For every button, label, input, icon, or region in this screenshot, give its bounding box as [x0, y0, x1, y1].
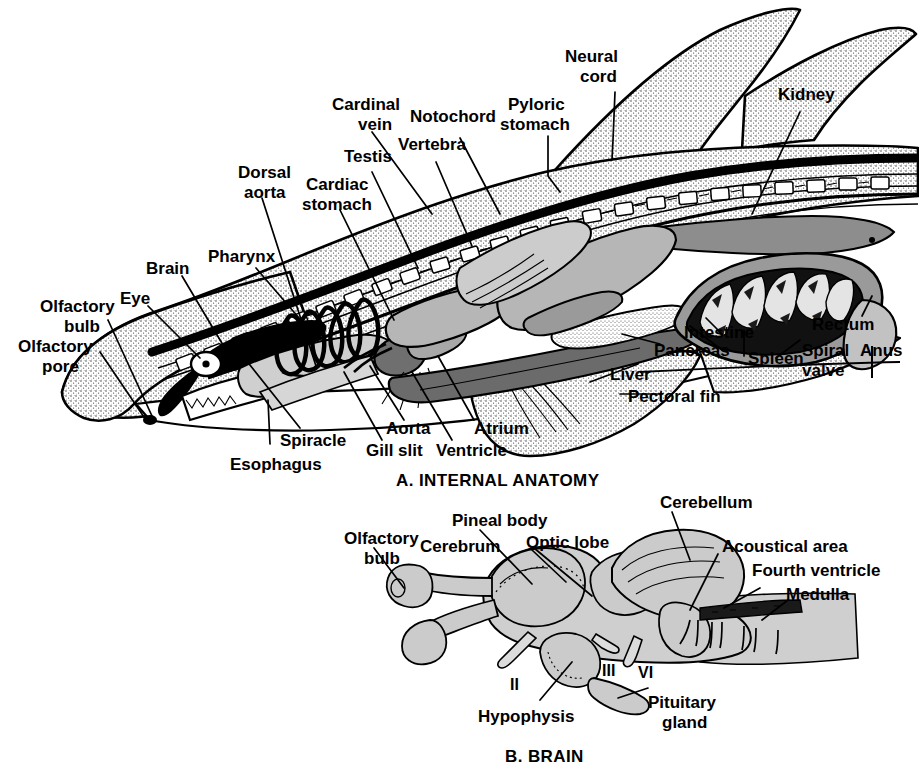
label-pituitary-1: Pituitary — [648, 693, 717, 712]
label-dorsal-line1: Dorsal — [238, 163, 291, 182]
label-fourth-ventricle: Fourth ventricle — [752, 561, 880, 580]
label-pancreas: Pancreas — [654, 341, 730, 360]
label-dorsal-line2: aorta — [244, 183, 286, 202]
label-ventricle: Ventricle — [436, 441, 507, 460]
label-pituitary-2: gland — [662, 713, 707, 732]
label-spiral-line1: Spiral — [802, 341, 849, 360]
label-notochord: Notochord — [410, 107, 496, 126]
label-olf-bulb-b1: Olfactory — [344, 529, 419, 548]
label-intestine: Intestine — [684, 323, 754, 342]
label-eye: Eye — [120, 289, 150, 308]
caption-panel-a: A. INTERNAL ANATOMY — [396, 471, 600, 490]
label-spleen: Spleen — [748, 349, 804, 368]
label-rectum: Rectum — [812, 315, 874, 334]
label-vertebra: Vertebra — [398, 135, 467, 154]
label-olf-pore-line2: pore — [42, 357, 79, 376]
label-pineal-body: Pineal body — [452, 511, 548, 530]
kidney-duct-opening — [869, 237, 875, 243]
label-neural-cord-line2: cord — [580, 67, 617, 86]
label-anus: Anus — [860, 341, 903, 360]
shark-anatomy-figure: Neural cord Kidney Pyloric stomach Notoc… — [0, 0, 919, 775]
label-esophagus: Esophagus — [230, 455, 322, 474]
label-gill-slit: Gill slit — [366, 441, 423, 460]
caption-panel-b: B. BRAIN — [505, 747, 584, 766]
label-pyloric-line1: Pyloric — [508, 95, 565, 114]
label-optic-lobe: Optic lobe — [526, 533, 609, 552]
label-olf-bulb-line2: bulb — [64, 317, 100, 336]
label-spiral-line2: valve — [802, 361, 845, 380]
label-medulla: Medulla — [786, 585, 850, 604]
label-olf-pore-line1: Olfactory — [18, 337, 93, 356]
label-cerebellum: Cerebellum — [660, 493, 753, 512]
label-brain: Brain — [146, 259, 189, 278]
label-pharynx: Pharynx — [208, 247, 276, 266]
label-cardiac-line2: stomach — [302, 195, 372, 214]
label-pyloric-line2: stomach — [500, 115, 570, 134]
label-cardiac-line1: Cardiac — [306, 175, 368, 194]
eye-pupil — [202, 360, 209, 367]
label-testis: Testis — [344, 147, 392, 166]
label-neural-cord-line1: Neural — [565, 47, 618, 66]
label-nerve-iii: III — [602, 662, 615, 679]
label-hypophysis: Hypophysis — [478, 707, 574, 726]
label-olf-bulb-b2: bulb — [364, 549, 400, 568]
label-cardinal-line2: vein — [358, 115, 392, 134]
label-nerve-ii: II — [510, 676, 519, 693]
label-cerebrum: Cerebrum — [420, 537, 500, 556]
label-aorta: Aorta — [386, 419, 431, 438]
figure-canvas: Neural cord Kidney Pyloric stomach Notoc… — [0, 0, 919, 775]
label-spiracle: Spiracle — [280, 431, 346, 450]
label-nerve-vi: VI — [638, 664, 653, 681]
label-atrium: Atrium — [474, 419, 529, 438]
label-cardinal-line1: Cardinal — [332, 95, 400, 114]
olfactory-bulb-upper — [387, 565, 433, 608]
label-acoustical-area: Acoustical area — [722, 537, 848, 556]
label-pectoral-fin: Pectoral fin — [628, 387, 721, 406]
label-kidney: Kidney — [778, 85, 835, 104]
label-olf-bulb-line1: Olfactory — [40, 297, 115, 316]
label-liver: Liver — [610, 365, 651, 384]
